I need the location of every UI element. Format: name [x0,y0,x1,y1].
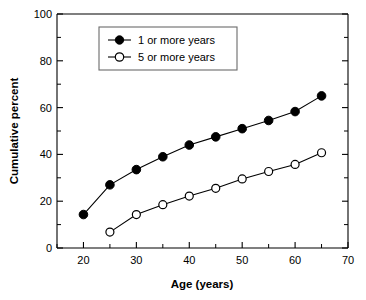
data-point-1 [211,133,220,142]
legend-label-1: 1 or more years [138,34,216,46]
data-point-2 [212,184,220,192]
data-point-1 [238,124,247,133]
y-tick-label: 40 [40,148,52,160]
legend-marker-open-circle-icon [115,53,123,61]
y-tick-label: 0 [46,242,52,254]
legend-label-2: 5 or more years [138,51,216,63]
x-tick-label: 20 [77,254,89,266]
data-point-1 [159,152,168,161]
data-point-1 [317,92,326,101]
data-point-2 [132,211,140,219]
legend-marker-filled-circle-icon [115,36,123,44]
data-point-1 [132,165,141,174]
x-tick-label: 40 [183,254,195,266]
data-point-2 [159,201,167,209]
data-point-2 [265,167,273,175]
x-axis-title: Age (years) [171,278,234,290]
data-point-1 [106,181,115,190]
y-tick-label: 20 [40,195,52,207]
y-axis-title: Cumulative percent [8,77,20,184]
chart-legend: 1 or more years 5 or more years [99,27,237,70]
data-point-2 [106,228,114,236]
y-tick-label: 80 [40,55,52,67]
data-point-2 [318,149,326,157]
data-point-1 [79,210,88,219]
y-tick-label: 60 [40,102,52,114]
data-point-2 [185,192,193,200]
x-tick-label: 30 [130,254,142,266]
data-point-2 [291,160,299,168]
data-point-1 [264,116,273,125]
cumulative-percent-line-chart: 020406080100 203040506070 Age (years) Cu… [0,0,366,300]
y-tick-label: 100 [34,8,52,20]
data-point-1 [291,107,300,116]
chart-figure: 020406080100 203040506070 Age (years) Cu… [0,0,366,300]
data-point-1 [185,141,194,150]
x-tick-label: 50 [236,254,248,266]
x-tick-label: 60 [289,254,301,266]
x-tick-label: 70 [342,254,354,266]
data-point-2 [238,175,246,183]
